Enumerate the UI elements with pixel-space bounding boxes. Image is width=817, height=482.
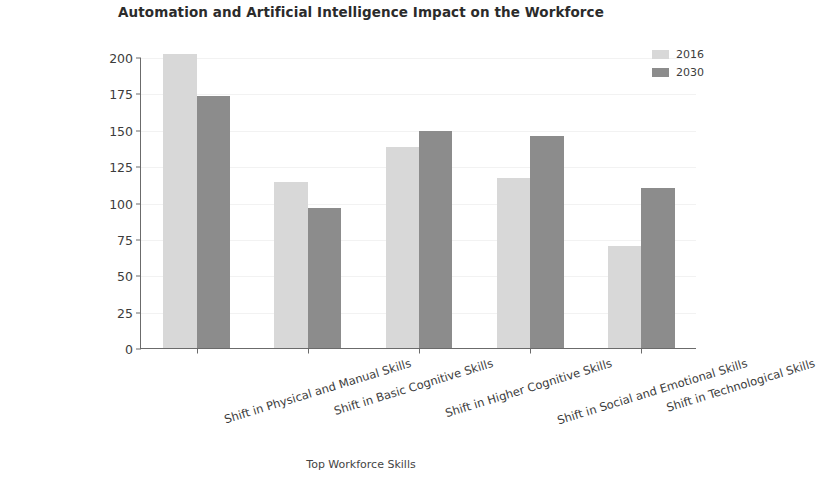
bar-2016-4 bbox=[497, 178, 530, 348]
bar-2016-2 bbox=[274, 182, 307, 348]
y-axis-tick-label: 150 bbox=[109, 123, 141, 138]
y-axis-tick-label: 125 bbox=[109, 160, 141, 175]
y-axis-tick-label: 25 bbox=[117, 305, 141, 320]
y-axis-tick-label: 200 bbox=[109, 51, 141, 66]
bar-2016-1 bbox=[163, 54, 196, 348]
y-axis-tick-label: 100 bbox=[109, 196, 141, 211]
gridline bbox=[141, 58, 696, 59]
x-axis-tick-mark bbox=[419, 349, 420, 354]
legend-label: 2016 bbox=[676, 48, 704, 61]
y-axis-tick-label: 0 bbox=[125, 342, 141, 357]
y-axis-tick-label: 175 bbox=[109, 87, 141, 102]
legend-label: 2030 bbox=[676, 66, 704, 79]
legend-swatch-icon bbox=[652, 50, 669, 59]
chart-title: Automation and Artificial Intelligence I… bbox=[0, 4, 722, 20]
x-axis-tick-mark bbox=[641, 349, 642, 354]
legend-item-2016[interactable]: 2016 bbox=[652, 48, 704, 61]
bar-2030-5 bbox=[641, 188, 674, 348]
y-axis-tick-label: 75 bbox=[117, 232, 141, 247]
bar-2016-5 bbox=[608, 246, 641, 348]
x-axis-tick-mark bbox=[308, 349, 309, 354]
plot-area: 0255075100125150175200 bbox=[140, 58, 696, 349]
bar-2016-3 bbox=[386, 147, 419, 348]
legend-item-2030[interactable]: 2030 bbox=[652, 66, 704, 79]
gridline bbox=[141, 94, 696, 95]
legend-swatch-icon bbox=[652, 68, 669, 77]
bar-2030-2 bbox=[308, 208, 341, 348]
x-axis-tick-mark bbox=[530, 349, 531, 354]
bar-2030-1 bbox=[197, 96, 230, 348]
bar-2030-4 bbox=[530, 136, 563, 348]
x-axis-tick-mark bbox=[197, 349, 198, 354]
x-axis-title: Top Workforce Skills bbox=[0, 458, 722, 471]
y-axis-tick-label: 50 bbox=[117, 269, 141, 284]
bar-2030-3 bbox=[419, 131, 452, 348]
chart-legend: 20162030 bbox=[652, 48, 704, 84]
